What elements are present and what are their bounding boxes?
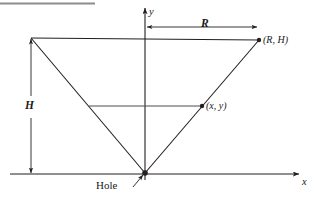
surface-point-marker xyxy=(200,104,204,108)
hole-label: Hole xyxy=(96,180,117,191)
figure-container: y x R H (R, H) (x, y) Hole xyxy=(0,0,314,198)
hole-point-marker xyxy=(142,170,148,176)
rim-point-marker xyxy=(257,38,261,42)
diagram-canvas xyxy=(0,0,314,198)
hole-leader-line xyxy=(133,175,143,187)
height-label: H xyxy=(25,100,34,112)
rim-point-label: (R, H) xyxy=(263,35,288,45)
radius-label: R xyxy=(201,18,209,30)
y-axis-label: y xyxy=(149,7,154,18)
surface-point-label: (x, y) xyxy=(206,101,227,111)
x-axis-label: x xyxy=(302,177,307,188)
